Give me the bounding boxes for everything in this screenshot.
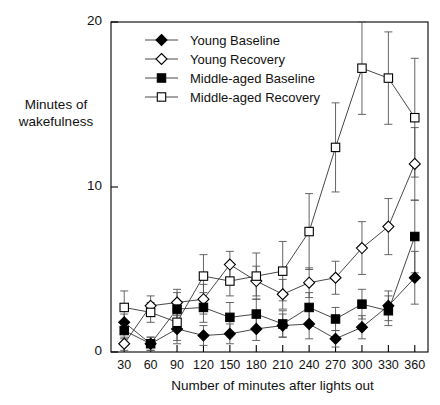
legend-marker — [157, 93, 165, 101]
legend-label: Middle-aged Baseline — [190, 71, 315, 86]
chart-figure: Minutes of wakefulness Number of minutes… — [0, 0, 440, 405]
data-point — [304, 277, 315, 288]
series-line — [124, 164, 415, 344]
data-point — [224, 328, 235, 339]
data-point — [146, 308, 154, 316]
data-point — [173, 318, 181, 326]
data-point — [146, 340, 154, 348]
data-point — [199, 303, 207, 311]
data-point — [252, 272, 260, 280]
data-point — [120, 326, 128, 334]
legend-marker — [157, 74, 165, 82]
data-point — [358, 300, 366, 308]
data-point — [305, 227, 313, 235]
legend-marker — [156, 54, 167, 65]
data-point — [120, 303, 128, 311]
legend-label: Middle-aged Recovery — [190, 90, 321, 105]
data-point — [251, 323, 262, 334]
legend-label: Young Recovery — [190, 52, 285, 67]
legend-marker — [156, 35, 167, 46]
y-tick-label: 10 — [72, 178, 102, 193]
data-point — [224, 259, 235, 270]
data-point — [199, 272, 207, 280]
data-point — [330, 333, 341, 344]
data-point — [119, 338, 130, 349]
y-tick-label: 0 — [72, 343, 102, 358]
data-point — [331, 315, 339, 323]
data-point — [411, 114, 419, 122]
data-point — [356, 322, 367, 333]
data-point — [198, 330, 209, 341]
data-point — [226, 313, 234, 321]
legend-label: Young Baseline — [190, 33, 280, 48]
data-point — [358, 64, 366, 72]
data-point — [173, 305, 181, 313]
data-point — [226, 277, 234, 285]
data-point — [384, 74, 392, 82]
series-line — [124, 68, 415, 322]
data-point — [409, 158, 420, 169]
data-point — [411, 232, 419, 240]
plot-area: Young BaselineYoung RecoveryMiddle-aged … — [0, 0, 440, 405]
data-point — [304, 318, 315, 329]
x-tick-label: 360 — [400, 358, 430, 372]
data-point — [331, 143, 339, 151]
data-point — [277, 289, 288, 300]
data-point — [384, 307, 392, 315]
data-point — [279, 320, 287, 328]
data-point — [279, 267, 287, 275]
data-point — [252, 310, 260, 318]
data-point — [383, 221, 394, 232]
y-tick-label: 20 — [72, 13, 102, 28]
data-point — [305, 303, 313, 311]
